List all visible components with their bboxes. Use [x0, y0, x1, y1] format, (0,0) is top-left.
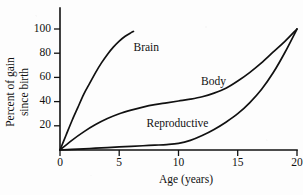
y-tick-label: 100	[34, 22, 52, 34]
chart-figure: Percent of gain since birth 100 80 60 40…	[0, 0, 303, 195]
x-tick-label: 5	[116, 156, 122, 168]
y-tick-label: 20	[40, 118, 52, 130]
x-tick-label: 10	[173, 156, 185, 168]
curve-label-body: Body	[201, 75, 226, 88]
x-tick-label: 0	[57, 156, 63, 168]
x-axis-tick-labels: 0 5 10 15 20	[57, 156, 303, 168]
curve-label-reproductive: Reproductive	[147, 117, 209, 130]
curve-label-brain: Brain	[133, 41, 159, 53]
x-axis-title: Age (years)	[159, 173, 213, 186]
y-axis-tick-labels: 100 80 60 40 20	[34, 22, 52, 131]
y-axis-ticks	[54, 29, 60, 126]
series-line-reproductive	[60, 29, 297, 150]
y-tick-label: 40	[40, 94, 52, 106]
x-tick-label: 15	[232, 156, 244, 168]
y-tick-label: 60	[40, 70, 52, 82]
x-tick-label: 20	[291, 156, 303, 168]
growth-curves-chart: Percent of gain since birth 100 80 60 40…	[0, 0, 303, 195]
y-axis-title-line1: Percent of gain	[4, 57, 17, 127]
series-line-brain	[60, 31, 133, 150]
y-tick-label: 80	[40, 46, 52, 58]
y-axis-title: Percent of gain since birth	[4, 57, 30, 127]
y-axis-title-line2: since birth	[18, 68, 30, 116]
